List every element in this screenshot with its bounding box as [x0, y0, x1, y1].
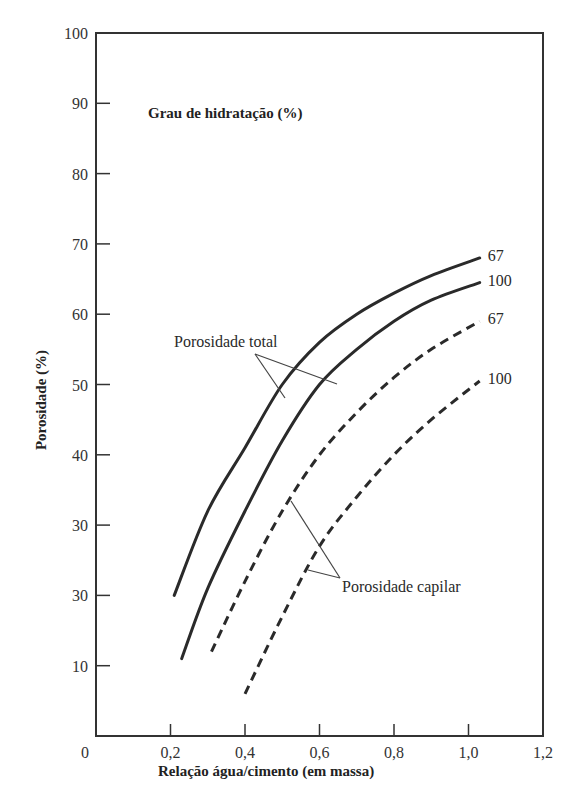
- x-tick-label: 1,2: [533, 744, 553, 761]
- series-end-label: 67: [488, 310, 504, 327]
- y-tick-label: 30: [72, 587, 88, 604]
- x-tick-label: 0,8: [384, 744, 404, 761]
- y-tick-label: 70: [72, 236, 88, 253]
- end-labels: 6710067100: [488, 247, 512, 387]
- porosity-chart: 10303040506070809010000,20,40,60,81,01,2…: [0, 0, 578, 809]
- capillary-porosity-line-67: [211, 321, 479, 651]
- x-tick-label: 0: [81, 744, 89, 761]
- leader-line: [255, 354, 337, 384]
- series-end-label: 67: [488, 247, 504, 264]
- x-tick-label: 0,2: [161, 744, 181, 761]
- total-porosity-line-67: [174, 258, 479, 595]
- series-lines: [174, 258, 479, 694]
- y-tick-label: 50: [72, 377, 88, 394]
- y-tick-label: 30: [72, 517, 88, 534]
- leader-line: [255, 354, 285, 398]
- y-tick-label: 60: [72, 306, 88, 323]
- y-axis-title: Porosidade (%): [33, 350, 50, 450]
- y-tick-label: 80: [72, 166, 88, 183]
- ticks: 10303040506070809010000,20,40,60,81,01,2: [64, 25, 553, 761]
- x-tick-label: 0,4: [235, 744, 255, 761]
- annotation-capillary-porosity: Porosidade capilar: [342, 578, 461, 596]
- x-tick-label: 0,6: [310, 744, 330, 761]
- series-end-label: 100: [488, 272, 512, 289]
- capillary-porosity-line-100: [245, 381, 480, 694]
- chart-title: Grau de hidratação (%): [148, 105, 303, 122]
- x-axis-title: Relação água/cimento (em massa): [158, 763, 374, 780]
- annotation-total-porosity: Porosidade total: [174, 333, 278, 350]
- x-tick-label: 1,0: [459, 744, 479, 761]
- series-end-label: 100: [488, 370, 512, 387]
- y-tick-label: 100: [64, 25, 88, 42]
- y-tick-label: 10: [72, 658, 88, 675]
- y-tick-label: 90: [72, 95, 88, 112]
- y-tick-label: 40: [72, 447, 88, 464]
- leader-line: [291, 501, 340, 578]
